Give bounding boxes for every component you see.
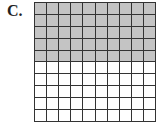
empty-cell [132,110,144,122]
shaded-cell [83,15,95,27]
shaded-cell [96,3,108,15]
hundred-grid [34,2,156,122]
shaded-cell [83,51,95,63]
empty-cell [35,62,47,74]
shaded-cell [144,3,156,15]
shaded-cell [144,51,156,63]
empty-cell [59,62,71,74]
shaded-cell [35,3,47,15]
empty-cell [83,98,95,110]
shaded-cell [108,15,120,27]
empty-cell [71,110,83,122]
shaded-cell [132,15,144,27]
shaded-cell [35,51,47,63]
empty-cell [108,62,120,74]
empty-cell [108,98,120,110]
empty-cell [83,110,95,122]
shaded-cell [108,51,120,63]
shaded-cell [83,3,95,15]
shaded-cell [83,39,95,51]
shaded-cell [120,27,132,39]
empty-cell [59,74,71,86]
shaded-cell [59,3,71,15]
shaded-cell [132,27,144,39]
empty-cell [144,86,156,98]
shaded-cell [108,3,120,15]
shaded-cell [120,15,132,27]
shaded-cell [59,15,71,27]
empty-cell [144,62,156,74]
empty-cell [144,110,156,122]
shaded-cell [35,15,47,27]
empty-cell [120,110,132,122]
shaded-cell [71,27,83,39]
empty-cell [120,62,132,74]
shaded-cell [35,39,47,51]
empty-cell [132,86,144,98]
shaded-cell [120,51,132,63]
shaded-cell [59,39,71,51]
empty-cell [144,98,156,110]
shaded-cell [71,39,83,51]
shaded-cell [120,3,132,15]
shaded-cell [71,15,83,27]
shaded-cell [59,27,71,39]
shaded-cell [108,27,120,39]
empty-cell [96,110,108,122]
empty-cell [96,62,108,74]
empty-cell [59,98,71,110]
empty-cell [96,98,108,110]
empty-cell [47,74,59,86]
empty-cell [71,74,83,86]
empty-cell [83,86,95,98]
option-label: C. [7,2,23,20]
empty-cell [144,74,156,86]
empty-cell [96,86,108,98]
shaded-cell [35,27,47,39]
shaded-cell [144,15,156,27]
shaded-cell [132,51,144,63]
shaded-cell [71,51,83,63]
shaded-cell [120,39,132,51]
empty-cell [47,110,59,122]
empty-cell [120,98,132,110]
empty-cell [59,86,71,98]
shaded-cell [47,51,59,63]
empty-cell [35,74,47,86]
empty-cell [132,74,144,86]
shaded-cell [96,39,108,51]
empty-cell [35,98,47,110]
empty-cell [47,98,59,110]
shaded-cell [59,51,71,63]
shaded-cell [71,3,83,15]
empty-cell [120,74,132,86]
shaded-cell [47,39,59,51]
empty-cell [83,62,95,74]
empty-cell [96,74,108,86]
shaded-cell [132,3,144,15]
empty-cell [35,110,47,122]
empty-cell [83,74,95,86]
shaded-cell [96,51,108,63]
shaded-cell [96,27,108,39]
shaded-cell [47,27,59,39]
shaded-cell [47,3,59,15]
empty-cell [71,98,83,110]
empty-cell [35,86,47,98]
empty-cell [108,110,120,122]
empty-cell [108,86,120,98]
shaded-cell [108,39,120,51]
empty-cell [59,110,71,122]
empty-cell [71,86,83,98]
shaded-cell [96,15,108,27]
shaded-cell [132,39,144,51]
empty-cell [132,98,144,110]
empty-cell [120,86,132,98]
empty-cell [108,74,120,86]
shaded-cell [83,27,95,39]
empty-cell [71,62,83,74]
empty-cell [132,62,144,74]
shaded-cell [144,39,156,51]
shaded-cell [47,15,59,27]
shaded-cell [144,27,156,39]
